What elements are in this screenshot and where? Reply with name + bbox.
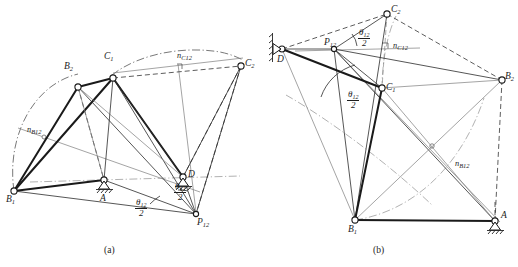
label-b-a: A: [501, 211, 507, 221]
b-line-c1-b2-grey: [382, 80, 502, 88]
joint-p12: [193, 211, 198, 216]
joint-c2: [238, 63, 244, 69]
b-link-b1-a: [355, 220, 495, 221]
dashed-c1-c2: [113, 66, 241, 78]
label-b-c2: C2: [391, 5, 401, 15]
link-b1-a: [14, 180, 104, 191]
b-dashed-b2-a: [495, 80, 502, 221]
label-b-theta-half-lower: θ12 2: [347, 90, 359, 110]
b-line-b1-b2-grey: [355, 80, 502, 220]
joint-c1: [110, 75, 116, 81]
label-a-a: A: [100, 194, 106, 204]
b-line-p12-b1: [334, 49, 355, 220]
joint-b2: [75, 84, 81, 90]
link-b2-b1: [14, 87, 78, 191]
label-a-theta-half-upper: θ12 2: [174, 182, 186, 202]
line-b2-d-grey: [78, 87, 183, 177]
arc-b1-b2: [13, 74, 78, 191]
b-line-p12-a: [334, 49, 495, 221]
label-b-nb12: nB12: [455, 160, 469, 168]
label-b-d: D: [277, 55, 284, 65]
arc-b-secondary: [286, 95, 432, 205]
label-a-theta-half-bottom: θ12 2: [135, 198, 147, 218]
b-joint-c2: [384, 11, 390, 17]
label-b-b1: B1: [348, 225, 357, 235]
label-a-c1: C1: [104, 52, 114, 62]
caption-b: (b): [373, 245, 384, 255]
label-b-nc12: nC12: [393, 42, 408, 50]
label-b-p12: P12: [324, 38, 336, 48]
arc-b-c1-c2: [382, 16, 396, 89]
label-a-p12: P12: [197, 218, 209, 228]
link-b1-c1: [14, 78, 113, 191]
b-node-midpoint: [430, 144, 434, 148]
b-joint-b1: [352, 217, 358, 223]
caption-a: (a): [104, 245, 115, 255]
b-dashed-c2-c1: [382, 14, 387, 88]
label-a-c2: C2: [245, 59, 255, 69]
label-b-theta-half-top: θ12 2: [358, 28, 370, 48]
ground-line-a-d: [30, 176, 240, 182]
label-a-b2: B2: [64, 62, 73, 72]
b-joint-c1: [379, 85, 385, 91]
b-line-c1-a-grey: [382, 88, 495, 221]
label-b-b2: B2: [505, 72, 514, 82]
label-a-d: D: [188, 170, 195, 180]
b-line-p12-c1: [334, 49, 382, 88]
fixed-pivot-a: [96, 177, 113, 193]
panel-a-drawing: [0, 0, 518, 267]
label-b-c1: C1: [386, 83, 396, 93]
b-line-d-b1-grey: [282, 49, 355, 220]
figure-container: B1 B2 C1 C2 A D P12 nB12 nC12 θ12 2 θ12 …: [0, 0, 518, 267]
label-a-nb12: nB12: [27, 126, 41, 134]
label-a-b1: B1: [6, 195, 15, 205]
label-a-nc12: nC12: [177, 52, 192, 60]
line-c1-a: [104, 78, 113, 180]
